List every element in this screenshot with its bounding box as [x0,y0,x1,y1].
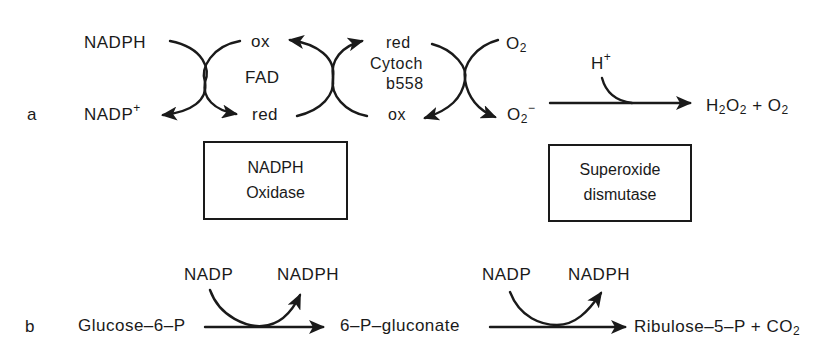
cytochrome-red-label: red [386,35,411,51]
fad-red-to-cyt-red-arrow [297,41,362,116]
superoxide-label: O2− [507,106,535,123]
nadph-output-label-2: NADPH [568,266,630,283]
fad-ox-label: ox [251,33,270,50]
cytochrome-ox-label: ox [388,107,406,123]
nadp-nadph-curve-1 [210,290,300,326]
nadph-oxidase-box: NADPH Oxidase [203,141,348,220]
ribulose-5-p-label: Ribulose–5–P + CO2 [634,318,800,335]
enzyme-name-line2: Oxidase [246,181,305,206]
6-p-gluconate-label: 6–P–gluconate [340,317,460,334]
superoxide-dismutase-box: Superoxide dismutase [548,144,692,222]
oxygen-label: O2 [506,35,527,52]
nadp-input-label-2: NADP [482,266,531,283]
cytochrome-b558-label: b558 [386,76,424,92]
proton-label: H+ [591,55,611,72]
fad-label: FAD [245,69,280,86]
fad-red-label: red [252,106,278,123]
nadph-label: NADPH [84,34,146,51]
cyt-red-to-cyt-ox-arrow [425,44,465,118]
o2-to-superoxide-arrow [465,40,498,117]
nadp-input-label-1: NADP [184,266,233,283]
nadph-output-label-1: NADPH [277,266,339,283]
h-plus-input-curve [602,78,632,103]
reaction-arrows [0,0,839,354]
enzyme-name-line2: dismutase [584,183,657,208]
enzyme-name-line1: Superoxide [580,158,661,183]
glucose-6-p-label: Glucose–6–P [78,317,186,334]
fad-ox-to-nadp-arrow [163,41,240,115]
panel-label-a: a [27,106,37,123]
cyt-ox-to-fad-ox-arrow [290,40,367,116]
enzyme-name-line1: NADPH [247,156,303,181]
products-label: H2O2 + O2 [706,97,789,114]
nadp-plus-label: NADP+ [84,106,141,123]
nadp-nadph-curve-2 [510,292,601,325]
cytochrome-label: Cytoch [370,56,423,72]
panel-label-b: b [25,318,35,335]
